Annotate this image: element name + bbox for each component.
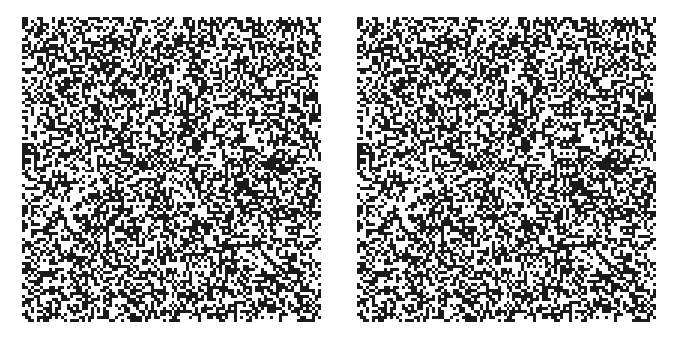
random-dot-pattern-left — [22, 17, 321, 322]
stereogram-left-panel — [22, 17, 321, 322]
random-dot-pattern-right — [357, 17, 656, 322]
stereogram-right-panel — [357, 17, 656, 322]
